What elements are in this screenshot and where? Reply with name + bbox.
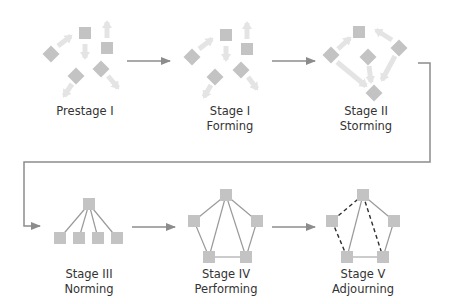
direction-arrow-icon <box>64 84 72 96</box>
stage-label-stage-2: Stage II Storming <box>311 104 421 134</box>
stage-title: Stage IV <box>171 267 281 282</box>
stage-title: Stage I <box>175 104 285 119</box>
member-node <box>360 49 377 66</box>
stage-title: Stage III <box>34 267 144 282</box>
stage-subtitle: Adjourning <box>308 282 418 297</box>
direction-arrow-icon <box>369 66 371 82</box>
member-node <box>203 251 215 263</box>
stage-subtitle: Norming <box>34 282 144 297</box>
stage-title: Stage V <box>308 267 418 282</box>
member-node <box>68 68 85 85</box>
network-nodes <box>54 189 400 263</box>
stage-subtitle: Storming <box>311 119 421 134</box>
member-node <box>184 49 201 66</box>
member-node <box>241 43 253 55</box>
member-node <box>323 47 340 64</box>
network-edges <box>60 195 394 257</box>
member-link <box>226 195 246 257</box>
member-node <box>207 69 224 86</box>
member-node <box>377 251 389 263</box>
direction-arrow-icon <box>338 38 350 49</box>
direction-arrow-icon <box>382 56 395 80</box>
member-node <box>366 85 383 102</box>
member-node <box>101 42 113 54</box>
scatter-nodes <box>43 26 408 101</box>
member-node <box>92 232 104 244</box>
member-node <box>326 215 338 227</box>
member-node <box>391 40 408 57</box>
member-node <box>43 46 60 63</box>
stage-subtitle: Forming <box>175 119 285 134</box>
stage-label-prestage-1: Prestage I <box>30 104 140 119</box>
member-node <box>251 215 263 227</box>
member-link <box>347 195 363 257</box>
stage-label-stage-4: Stage IV Performing <box>171 267 281 297</box>
member-node <box>220 29 232 41</box>
direction-arrow-icon <box>204 85 211 97</box>
direction-arrow-icon <box>376 30 392 40</box>
member-node <box>73 232 85 244</box>
stage-title: Stage II <box>311 104 421 119</box>
direction-arrow-icon <box>199 39 212 49</box>
stage-label-stage-5: Stage V Adjourning <box>308 267 418 297</box>
member-node <box>83 198 95 210</box>
direction-arrow-icon <box>337 62 366 86</box>
member-node <box>54 232 66 244</box>
member-node <box>93 61 110 78</box>
stage-label-stage-1: Stage I Forming <box>175 104 285 134</box>
stage-label-stage-3: Stage III Norming <box>34 267 144 297</box>
member-node <box>79 27 91 39</box>
member-node <box>233 62 250 79</box>
team-development-diagram <box>0 0 454 304</box>
member-node <box>111 232 123 244</box>
stage-subtitle: Performing <box>171 282 281 297</box>
member-node <box>341 251 353 263</box>
member-node <box>188 215 200 227</box>
stage-title: Prestage I <box>30 104 140 119</box>
direction-arrow-icon <box>108 76 118 88</box>
direction-arrow-icon <box>248 77 257 89</box>
member-node <box>357 189 369 201</box>
weakening-link <box>363 195 383 257</box>
direction-arrow-icon <box>58 36 71 46</box>
member-node <box>353 26 365 38</box>
member-node <box>220 189 232 201</box>
member-node <box>240 251 252 263</box>
member-link <box>209 195 226 257</box>
member-node <box>388 215 400 227</box>
